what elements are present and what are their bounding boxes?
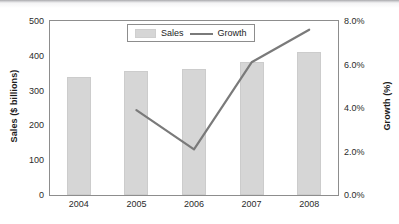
y-axis-left-title: Sales ($ billions) [9,51,19,161]
y-left-tick-500: 500 [16,16,44,26]
x-tick-2007: 2007 [232,199,272,209]
y-left-tick-100: 100 [16,155,44,165]
y-right-tick-4.0pct: 4.0% [344,103,378,113]
y-left-tick-300: 300 [16,86,44,96]
plot-area [49,20,339,196]
sales-growth-combo-chart: Sales ($ billions) Growth (%) 0100200300… [0,0,399,224]
legend-item-growth: Growth [190,28,247,38]
legend-label-growth: Growth [218,28,247,38]
legend-label-sales: Sales [161,28,184,38]
legend-item-sales: Sales [135,28,184,38]
legend-growth-swatch-icon [190,29,213,38]
y-right-tick-0.0pct: 0.0% [344,190,378,200]
growth-line-layer [50,21,338,195]
y-left-tick-400: 400 [16,51,44,61]
x-tick-2006: 2006 [174,199,214,209]
y-right-tick-2.0pct: 2.0% [344,147,378,157]
chart-legend: Sales Growth [127,24,255,42]
scan-edge-strip-fade [0,3,399,8]
y-right-tick-6.0pct: 6.0% [344,60,378,70]
x-tick-2005: 2005 [116,199,156,209]
y-right-tick-8.0pct: 8.0% [344,16,378,26]
x-tick-2004: 2004 [59,199,99,209]
growth-line [136,30,309,150]
legend-sales-swatch-icon [135,29,156,38]
y-left-tick-200: 200 [16,120,44,130]
y-axis-right-title: Growth (%) [382,51,392,161]
x-tick-2008: 2008 [289,199,329,209]
y-left-tick-0: 0 [16,190,44,200]
